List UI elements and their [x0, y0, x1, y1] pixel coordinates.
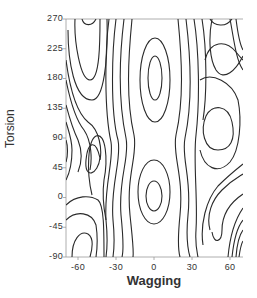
contour-plot: [0, 0, 257, 298]
y-tick-label: 45: [52, 162, 63, 172]
x-tick-label: 0: [151, 262, 156, 272]
contour-min-0-180-mid: [140, 38, 170, 122]
x-axis-label: Wagging: [127, 273, 181, 288]
contour-min-0-0-mid: [138, 160, 170, 224]
y-tick-label: 180: [47, 72, 63, 82]
x-tick-label: -60: [71, 262, 85, 272]
x-tick-label: 30: [187, 262, 198, 272]
y-tick-label: 0: [58, 191, 63, 201]
contour-min-0-180-inner: [148, 56, 162, 100]
y-tick-label: -45: [49, 221, 63, 231]
y-ticks: [63, 19, 66, 257]
x-tick-label: 60: [225, 262, 236, 272]
contour-min-0-0-inner: [146, 181, 162, 211]
y-tick-label: 90: [52, 132, 63, 142]
x-tick-label: -30: [109, 262, 123, 272]
x-ticks: [78, 257, 230, 260]
y-tick-label: 270: [47, 13, 63, 23]
y-axis-label: Torsion: [3, 109, 17, 148]
contour-lines: [66, 19, 243, 257]
y-tick-label: -90: [49, 251, 63, 261]
y-tick-label: 135: [47, 102, 63, 112]
y-tick-label: 225: [47, 43, 63, 53]
contour-figure: Torsion 270 225 180 135 90 45 0 -45 -90 …: [0, 0, 257, 298]
